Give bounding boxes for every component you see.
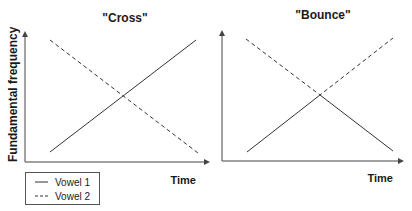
legend: Vowel 1 Vowel 2 (26, 173, 100, 205)
legend-vowel1: Vowel 1 (55, 177, 90, 188)
bounce-vowel2-line (246, 38, 393, 95)
bounce-x-axis-label: Time (368, 172, 393, 184)
figure: "Cross" Fundamental frequency Time "Boun… (0, 0, 412, 211)
cross-x-axis-label: Time (171, 174, 196, 186)
cross-title: "Cross" (102, 11, 147, 25)
bounce-panel: "Bounce" Time (222, 8, 401, 184)
cross-panel: "Cross" Fundamental frequency Time (6, 11, 207, 186)
legend-vowel2: Vowel 2 (55, 191, 90, 202)
bounce-title: "Bounce" (295, 8, 350, 22)
cross-vowel2-line (50, 40, 198, 153)
bounce-vowel1-line (247, 95, 393, 152)
y-axis-label: Fundamental frequency (6, 26, 20, 162)
